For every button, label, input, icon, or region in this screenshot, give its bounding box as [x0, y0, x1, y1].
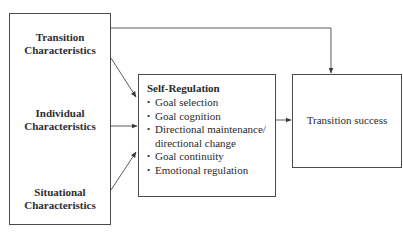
factor-label-line1: Individual [10, 107, 110, 120]
list-item: •Emotional regulation [147, 164, 283, 178]
list-item: •Goal cognition [147, 110, 283, 124]
arrow-situational-to-selfreg [111, 152, 136, 190]
situational-characteristics-node: Situational Characteristics [10, 186, 110, 212]
self-regulation-box: Self-Regulation •Goal selection •Goal co… [138, 74, 276, 197]
list-item-label: Emotional regulation [155, 164, 248, 176]
list-item-label: Goal cognition [155, 110, 221, 122]
factor-label-line2: Characteristics [10, 199, 110, 212]
arrow-transition-to-selfreg [111, 58, 136, 97]
bullet-icon: • [147, 123, 150, 137]
arrow-transition-to-success [111, 28, 331, 73]
bullet-icon: • [147, 96, 150, 110]
list-item: •Goal continuity [147, 150, 283, 164]
bullet-icon: • [147, 150, 150, 164]
self-regulation-title: Self-Regulation [147, 82, 220, 95]
transition-success-box: Transition success [292, 74, 402, 168]
transition-characteristics-node: Transition Characteristics [10, 31, 110, 57]
factor-label-line1: Situational [10, 186, 110, 199]
bullet-icon: • [147, 110, 150, 124]
factor-label-line2: Characteristics [10, 44, 110, 57]
factor-label-line1: Transition [10, 31, 110, 44]
bullet-icon: • [147, 164, 150, 178]
individual-characteristics-node: Individual Characteristics [10, 107, 110, 133]
self-regulation-list: •Goal selection •Goal cognition •Directi… [147, 96, 283, 177]
list-item: •Directional maintenance/ directional ch… [147, 123, 283, 150]
transition-success-label: Transition success [293, 114, 401, 127]
factor-label-line2: Characteristics [10, 120, 110, 133]
list-item-label: Directional maintenance/ directional cha… [155, 123, 266, 149]
list-item-label: Goal selection [155, 96, 218, 108]
antecedents-box: Transition Characteristics Individual Ch… [9, 13, 111, 225]
list-item-label: Goal continuity [155, 150, 224, 162]
list-item: •Goal selection [147, 96, 283, 110]
